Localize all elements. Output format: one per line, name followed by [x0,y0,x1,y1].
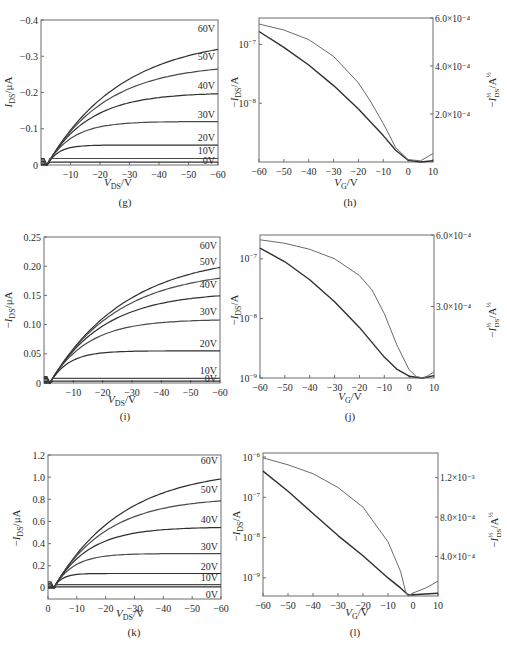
x-tick-label: −60 [210,169,226,180]
curve-20V [48,574,221,588]
x-axis-label: VG/V [334,176,358,191]
x-axis-label: VDS/V [104,176,132,191]
curve-label: 20V [201,561,219,572]
chart-panel-g: −10−20−30−40−50−600−0.1−0.2−0.3−0.460V50… [2,15,226,210]
x-tick-label: −50 [277,382,293,393]
curve-label: 40V [201,514,219,525]
y-tick-label: 0 [33,160,38,171]
x-tick-label: −50 [276,166,292,177]
x-tick-label: 10 [433,600,443,611]
y-left-tick-label: 10−6 [243,451,261,463]
y-right-tick-label: 8.0×10⁻⁴ [440,513,476,523]
y-right-tick-label: 1.2×10⁻³ [440,473,475,483]
x-tick-label: −20 [98,603,114,614]
x-tick-label: −50 [280,600,296,611]
chart-panel-h: −60−50−40−30−20−1001010−710−82.0×10⁻⁴4.0… [228,14,501,210]
curve-50V [44,278,220,383]
y-axis-label: −IDS/μA [10,509,25,546]
plot-frame [260,235,434,378]
sqrt-current-curve [259,24,433,161]
y-left-tick-label: 10−8 [243,531,261,543]
x-tick-label: 10 [428,166,438,177]
y-tick-label: 0.10 [24,319,42,330]
panel-caption: (k) [128,626,141,639]
curve-label: 60V [200,240,218,251]
y-tick-label: −0.2 [20,87,38,98]
curve-label: 40V [200,279,218,290]
x-tick-label: −10 [375,166,391,177]
y-right-axis-label: −I½DS/A½ [485,72,501,107]
y-tick-label: 0.8 [33,494,46,505]
x-tick-label: −40 [302,382,318,393]
x-tick-label: −50 [183,387,199,398]
x-tick-label: 10 [429,382,439,393]
y-tick-label: 0.20 [24,261,42,272]
y-tick-label: 0.05 [24,348,42,359]
x-axis-label: VDS/V [108,393,136,408]
curve-40V [44,296,220,383]
curve-label: 60V [201,455,219,466]
x-tick-label: −10 [69,603,85,614]
x-tick-label: −60 [252,382,268,393]
curve-label: 0V [205,373,218,384]
x-tick-label: 0 [46,603,51,614]
y-right-tick-label: 4.0×10⁻⁴ [440,552,476,562]
y-left-tick-label: 10−7 [240,252,258,264]
x-tick-label: −40 [154,387,170,398]
y-right-tick-label: 2.0×10⁻⁴ [435,110,471,120]
y-right-tick-label: 6.0×10⁻⁴ [436,231,472,241]
x-tick-label: 0 [407,382,412,393]
x-tick-label: 0 [411,600,416,611]
chart-panel-k: 0−10−20−30−40−50−6000.20.40.60.81.01.260… [10,450,229,640]
y-tick-label: 0.2 [33,560,46,571]
y-right-tick-label: 4.0×10⁻⁴ [435,62,471,72]
y-tick-label: −0.3 [20,51,38,62]
log-current-curve [259,32,433,163]
y-right-axis-label: −I½DS/A½ [485,302,501,337]
x-tick-label: −60 [251,166,267,177]
y-left-tick-label: 10−9 [243,571,261,583]
curve-label: 50V [200,256,218,267]
x-tick-label: −40 [151,169,167,180]
x-tick-label: −40 [301,166,317,177]
curve-label: 0V [203,155,216,166]
y-tick-label: 0.25 [24,232,42,243]
curve-label: 30V [200,306,218,317]
x-tick-label: −60 [212,387,228,398]
y-right-tick-label: 6.0×10⁻⁴ [435,14,471,24]
curve-label: 30V [201,541,219,552]
curve-label: 50V [198,51,216,62]
y-tick-label: 0 [36,378,41,389]
curve-label: 50V [201,484,219,495]
x-tick-label: −60 [213,603,229,614]
y-tick-label: 0.15 [24,290,42,301]
y-tick-label: 0.4 [33,538,46,549]
y-axis-label: −IDS/μA [2,291,17,328]
curve-label: 20V [198,132,216,143]
y-tick-label: −0.4 [20,15,38,26]
x-tick-label: −50 [181,169,197,180]
y-tick-label: 0 [40,582,45,593]
plot-frame [263,453,438,596]
sqrt-current-curve [263,458,438,596]
x-tick-label: −40 [305,600,321,611]
y-right-tick-label: 3.0×10⁻⁴ [436,302,472,312]
panel-caption: (h) [344,196,357,209]
x-tick-label: −30 [330,600,346,611]
x-tick-label: −10 [63,169,79,180]
plot-frame [44,237,220,383]
panel-caption: (g) [119,196,132,209]
y-axis-label: IDS/μA [2,77,17,109]
curve-label: 40V [198,80,216,91]
x-tick-label: −10 [380,600,396,611]
figure-canvas: −10−20−30−40−50−600−0.1−0.2−0.3−0.460V50… [0,0,507,647]
curve-50V [41,69,218,165]
curve-label: 60V [198,23,216,34]
curve-0V [48,587,221,588]
x-axis-label: VG/V [338,390,362,405]
y-tick-label: 0.6 [33,516,46,527]
x-tick-label: −40 [156,603,172,614]
panel-caption: (i) [120,410,131,423]
y-left-tick-label: 10−7 [243,491,261,503]
y-left-tick-label: 10−7 [239,38,257,50]
